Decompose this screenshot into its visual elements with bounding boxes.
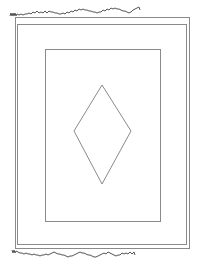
center-diamond	[74, 85, 131, 184]
outer-border	[16, 18, 190, 249]
rug-svg	[0, 0, 205, 266]
inner-panel	[46, 50, 161, 222]
top-fringe	[10, 7, 140, 16]
rug-drawing	[0, 0, 205, 266]
bottom-fringe	[12, 250, 135, 257]
middle-border	[18, 25, 187, 245]
